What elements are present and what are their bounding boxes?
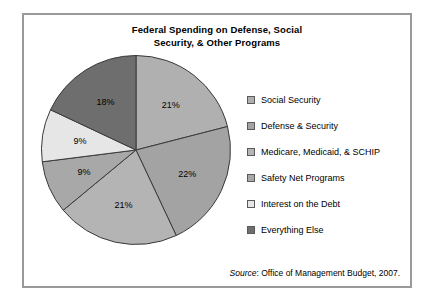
legend-item-label: Interest on the Debt (261, 199, 340, 209)
legend-item[interactable]: Social Security (247, 87, 407, 113)
legend-swatch-icon (247, 200, 255, 208)
pie-chart-svg: 21%22%21%9%9%18% (40, 54, 232, 246)
pie-slice-group (42, 56, 231, 245)
legend-item[interactable]: Everything Else (247, 217, 407, 243)
pie-slice-label: 9% (73, 136, 86, 146)
title-line-2: Security, & Other Programs (24, 37, 410, 50)
source-prefix: Source (230, 268, 257, 278)
source-note: Source: Office of Management Budget, 200… (230, 268, 400, 278)
pie-slice-label: 22% (178, 169, 196, 179)
legend-item[interactable]: Interest on the Debt (247, 191, 407, 217)
page-title: Federal Spending on Defense, Social Secu… (24, 24, 410, 49)
legend-item-label: Social Security (261, 95, 321, 105)
pie-chart: 21%22%21%9%9%18% (40, 54, 232, 246)
legend-item-label: Defense & Security (261, 121, 338, 131)
legend-item-label: Everything Else (261, 225, 324, 235)
legend-item-label: Safety Net Programs (261, 173, 345, 183)
title-line-1: Federal Spending on Defense, Social (24, 24, 410, 37)
legend-swatch-icon (247, 122, 255, 130)
legend-item-label: Medicare, Medicaid, & SCHIP (261, 147, 380, 157)
pie-slice-label: 9% (77, 167, 90, 177)
legend-item[interactable]: Safety Net Programs (247, 165, 407, 191)
legend-swatch-icon (247, 174, 255, 182)
legend-item[interactable]: Defense & Security (247, 113, 407, 139)
pie-slice-label: 18% (97, 97, 115, 107)
legend-swatch-icon (247, 226, 255, 234)
pie-slice-label: 21% (162, 100, 180, 110)
legend-item[interactable]: Medicare, Medicaid, & SCHIP (247, 139, 407, 165)
legend: Social SecurityDefense & SecurityMedicar… (247, 87, 407, 243)
pie-slice-label: 21% (115, 200, 133, 210)
legend-swatch-icon (247, 96, 255, 104)
legend-swatch-icon (247, 148, 255, 156)
chart-panel: Federal Spending on Defense, Social Secu… (22, 13, 412, 288)
source-text: Office of Management Budget, 2007. (261, 268, 400, 278)
